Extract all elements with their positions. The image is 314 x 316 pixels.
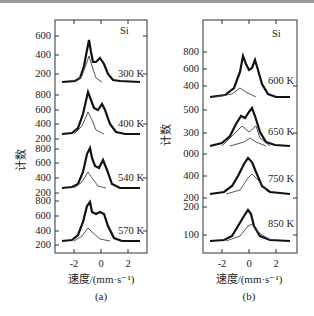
svg-text:600: 600 xyxy=(35,104,51,115)
svg-text:200: 200 xyxy=(35,68,51,79)
panel-caption: (b) xyxy=(243,290,256,303)
y-axis-label: 计数 xyxy=(160,124,172,146)
panel-a-chart: 600 400 200 800 600 400 200 800 600 400 … xyxy=(0,0,160,316)
x-axis-label: 速度/(mm·s⁻¹) xyxy=(68,272,135,286)
svg-text:750 K: 750 K xyxy=(268,173,294,184)
svg-text:800: 800 xyxy=(183,46,199,57)
svg-text:400: 400 xyxy=(183,170,199,181)
svg-text:600: 600 xyxy=(35,157,51,168)
svg-text:600: 600 xyxy=(35,210,51,221)
svg-text:400: 400 xyxy=(35,118,51,129)
svg-text:400: 400 xyxy=(35,225,51,236)
x-axis-label: 速度/(mm·s⁻¹) xyxy=(216,272,283,286)
svg-text:300: 300 xyxy=(183,127,199,138)
svg-text:2: 2 xyxy=(125,258,130,269)
svg-text:500: 500 xyxy=(183,104,199,115)
svg-text:600 K: 600 K xyxy=(268,75,294,86)
svg-text:400: 400 xyxy=(35,172,51,183)
svg-text:000: 000 xyxy=(183,148,199,159)
svg-text:540 K: 540 K xyxy=(118,172,144,183)
y-axis-label: 计数 xyxy=(15,149,27,171)
svg-text:200: 200 xyxy=(183,201,199,212)
svg-text:200: 200 xyxy=(35,239,51,250)
panel-caption: (a) xyxy=(95,290,108,303)
svg-text:400 K: 400 K xyxy=(118,118,144,129)
svg-text:-2: -2 xyxy=(70,258,79,269)
svg-text:850 K: 850 K xyxy=(268,218,294,229)
svg-text:300 K: 300 K xyxy=(118,68,144,79)
svg-text:0: 0 xyxy=(98,258,103,269)
svg-text:400: 400 xyxy=(35,49,51,60)
svg-text:100: 100 xyxy=(183,229,199,240)
svg-text:650 K: 650 K xyxy=(268,126,294,137)
svg-text:600: 600 xyxy=(35,30,51,41)
svg-text:570 K: 570 K xyxy=(118,225,144,236)
panel-b-chart: 800 600 400 500 300 000 400 200 200 100 … xyxy=(150,0,314,316)
svg-text:600: 600 xyxy=(183,63,199,74)
svg-text:-2: -2 xyxy=(218,258,227,269)
svg-text:800: 800 xyxy=(35,143,51,154)
element-label: Si xyxy=(120,25,129,36)
svg-text:400: 400 xyxy=(183,80,199,91)
svg-text:800: 800 xyxy=(35,89,51,100)
svg-text:2: 2 xyxy=(273,258,278,269)
element-label: Si xyxy=(272,28,281,39)
svg-text:0: 0 xyxy=(246,258,251,269)
svg-text:800: 800 xyxy=(35,195,51,206)
